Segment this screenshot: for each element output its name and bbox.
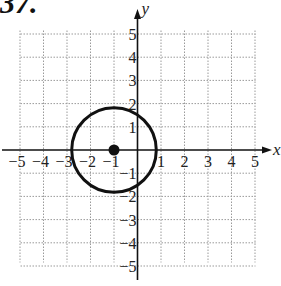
y-tick-label: 5 [129, 26, 137, 43]
x-tick-label: 5 [251, 153, 259, 170]
y-tick-label: −1 [119, 165, 136, 182]
x-axis-label: x [272, 140, 281, 159]
y-tick-label: −4 [119, 235, 136, 252]
x-tick-label: −3 [55, 153, 72, 170]
x-tick-label: −2 [79, 153, 96, 170]
x-tick-label: −5 [8, 153, 25, 170]
y-tick-label: 1 [129, 119, 137, 136]
y-axis-label: y [140, 0, 150, 18]
x-tick-label: 4 [228, 153, 236, 170]
y-tick-label: −5 [119, 258, 136, 275]
x-tick-label: 1 [157, 153, 165, 170]
y-tick-label: 4 [129, 49, 137, 66]
x-tick-label: 2 [181, 153, 189, 170]
center-point [109, 145, 120, 156]
y-tick-label: −3 [119, 212, 136, 229]
coordinate-graph: −5−4−3−2−11234554321−1−2−3−4−5 x y [0, 0, 281, 286]
x-tick-label: −1 [102, 153, 119, 170]
x-tick-label: 3 [204, 153, 212, 170]
y-tick-label: 3 [129, 72, 137, 89]
x-tick-label: −4 [32, 153, 49, 170]
